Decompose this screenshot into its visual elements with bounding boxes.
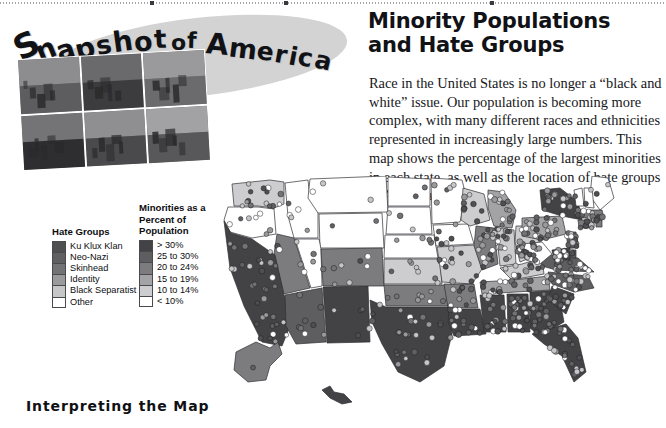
- state-nd: [388, 177, 430, 206]
- minorities-legend-title: Minorities as a Percent of Population: [139, 202, 231, 237]
- hate-group-dot: [276, 247, 282, 253]
- hate-group-dot: [500, 223, 504, 227]
- legend-swatch: [52, 274, 66, 285]
- hate-group-dot: [552, 320, 557, 325]
- hate-group-dot: [562, 336, 567, 341]
- hate-group-dot: [533, 257, 538, 262]
- hate-group-dot: [536, 296, 542, 302]
- legend-swatch: [139, 274, 153, 285]
- hate-group-dot: [248, 189, 253, 194]
- hate-group-dot: [270, 275, 276, 281]
- hate-group-dot: [436, 229, 441, 234]
- hate-group-dot: [551, 348, 557, 354]
- hate-group-dot: [509, 296, 515, 302]
- legend-swatch: [52, 252, 66, 263]
- hate-group-dot: [562, 249, 567, 254]
- hate-group-dot: [450, 260, 455, 265]
- legend-label: 20 to 24%: [157, 263, 198, 272]
- hate-group-dot: [368, 197, 374, 203]
- hate-group-dot: [517, 239, 523, 245]
- hate-group-dot: [424, 360, 430, 366]
- hate-group-dot: [408, 318, 414, 324]
- hate-group-dot: [569, 361, 574, 366]
- hate-group-dot: [543, 308, 549, 314]
- hate-group-dot: [302, 318, 308, 324]
- hate-group-dot: [394, 294, 399, 299]
- hate-group-dot: [522, 306, 527, 311]
- hate-group-dot: [542, 207, 547, 212]
- hate-group-dot: [527, 278, 533, 284]
- hate-group-dot: [240, 262, 245, 267]
- hate-group-dot: [544, 188, 550, 194]
- hate-group-dot: [569, 295, 574, 300]
- minorities-legend-rows: > 30%25 to 30%20 to 24%15 to 19%10 to 14…: [139, 240, 231, 307]
- hate-group-dot: [481, 264, 486, 269]
- photo-shape: [23, 80, 28, 89]
- hate-group-dot: [464, 303, 468, 307]
- hate-group-dot: [240, 204, 244, 208]
- hate-group-dot: [513, 263, 518, 268]
- hate-group-dot: [569, 234, 574, 239]
- hate-group-dot: [502, 319, 507, 324]
- interpreting-the-map-heading: Interpreting the Map: [26, 398, 209, 414]
- photo-shape: [179, 142, 186, 155]
- us-choropleth-map: [222, 176, 666, 412]
- photo-shape: [41, 144, 48, 160]
- hate-group-dot: [546, 198, 551, 203]
- hate-group-dot: [553, 285, 558, 290]
- hate-group-dot: [305, 228, 310, 233]
- hate-group-dot: [402, 350, 407, 355]
- hate-group-dot: [562, 353, 567, 358]
- hate-group-dot: [457, 296, 462, 301]
- hate-group-dot: [581, 208, 587, 214]
- hate-group-dot: [586, 274, 590, 278]
- hate-group-dot: [365, 264, 370, 269]
- hate-group-dot: [553, 231, 558, 236]
- rule-tick: [490, 1, 494, 5]
- photo-shape: [30, 87, 37, 99]
- hate-group-dot: [432, 182, 438, 188]
- hate-group-dot: [261, 186, 266, 191]
- hate-group-dot: [527, 221, 532, 226]
- hate-group-dot: [537, 317, 542, 322]
- legend-label: > 30%: [157, 241, 183, 250]
- hate-group-dot: [486, 293, 492, 299]
- hate-group-dot: [501, 201, 506, 206]
- hate-group-dot: [397, 330, 402, 335]
- hate-group-dot: [481, 284, 486, 289]
- hate-group-dot: [577, 355, 582, 360]
- hate-group-dot: [261, 296, 267, 302]
- hate-group-dot: [435, 280, 440, 285]
- hate-group-dot: [270, 324, 275, 329]
- hate-group-dot: [474, 273, 479, 278]
- legend-swatch: [139, 262, 153, 273]
- state-polygons: [224, 176, 614, 404]
- hate-group-dot: [246, 216, 251, 221]
- hate-group-dot: [556, 279, 561, 284]
- hate-group-dot: [426, 322, 432, 328]
- photo-shape: [92, 148, 97, 159]
- hate-group-dot: [567, 277, 573, 283]
- hate-group-dot: [532, 323, 537, 328]
- hate-group-dot: [466, 330, 471, 335]
- hate-group-dot: [371, 312, 376, 317]
- hate-group-dot: [574, 369, 580, 375]
- state-tx: [370, 300, 452, 382]
- hate-group-dot: [311, 259, 316, 264]
- hate-group-dot: [474, 219, 480, 225]
- hate-group-dot: [242, 243, 248, 249]
- hate-group-dot: [320, 266, 325, 271]
- photo-shape: [108, 84, 113, 101]
- photo-shape: [50, 91, 55, 101]
- hate-group-dot: [449, 318, 454, 323]
- hate-group-dot: [578, 225, 583, 230]
- hate-group-dot: [512, 305, 517, 310]
- hate-group-dot: [545, 233, 550, 238]
- hate-group-dot: [480, 255, 486, 261]
- state-sd: [386, 207, 432, 234]
- hate-group-dot: [284, 333, 288, 337]
- hate-group-dot: [599, 214, 605, 220]
- hate-group-dot: [320, 181, 325, 186]
- hate-group-dot: [295, 207, 301, 213]
- hate-group-dot: [448, 335, 453, 340]
